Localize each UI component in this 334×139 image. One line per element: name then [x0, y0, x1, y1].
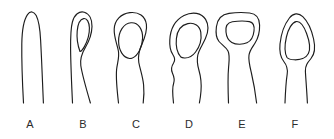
panel-b: B — [71, 12, 92, 130]
shape-outline-f — [280, 14, 315, 103]
panel-label-e: E — [238, 118, 246, 130]
shape-aperture-b — [77, 19, 89, 52]
shape-aperture-e — [226, 21, 254, 44]
panel-label-b: B — [79, 118, 87, 130]
panel-f: F — [280, 14, 315, 130]
shape-aperture-f — [285, 22, 309, 60]
shape-outline-c — [114, 12, 146, 103]
panel-label-c: C — [132, 118, 140, 130]
panel-e: E — [216, 13, 260, 130]
panel-d: D — [170, 13, 208, 130]
panel-label-a: A — [26, 118, 34, 130]
panel-c: C — [114, 12, 146, 130]
shape-aperture-d — [176, 23, 201, 58]
panel-a: A — [22, 12, 44, 130]
panel-label-d: D — [185, 118, 193, 130]
figure-plate: A B C D E F — [0, 0, 334, 139]
shape-outline-e — [216, 13, 260, 103]
panel-label-f: F — [292, 118, 299, 130]
shape-outline-d — [170, 13, 208, 103]
line-drawing-canvas: A B C D E F — [0, 0, 334, 139]
shape-outline-a — [22, 12, 44, 103]
